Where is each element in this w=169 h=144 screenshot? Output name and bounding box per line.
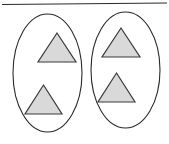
- canvas-background: [0, 0, 169, 144]
- triangle-groups-figure: [0, 0, 169, 144]
- figure-container: [0, 0, 169, 144]
